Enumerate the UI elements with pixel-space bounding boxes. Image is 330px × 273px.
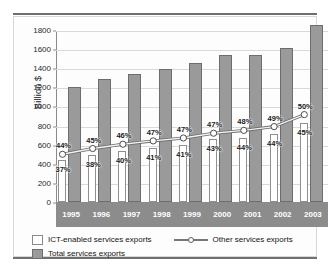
y-tick-label: 0 (47, 199, 51, 207)
chart-legend: ICT-enabled services exports Other servi… (32, 233, 324, 261)
y-tick-label: 800 (38, 123, 51, 131)
data-label-other-pct: 46% (116, 132, 131, 140)
data-label-other-pct: 47% (207, 121, 222, 129)
x-tick-label: 1995 (62, 211, 80, 219)
legend-swatch-total-icon (32, 249, 43, 259)
data-label-ict-pct: 44% (267, 140, 282, 148)
x-tick-label: 2000 (213, 211, 231, 219)
data-label-ict-pct: 43% (207, 145, 222, 153)
bar-group (237, 30, 267, 202)
data-label-other-pct: 49% (268, 115, 283, 123)
data-label-other-pct: 44% (56, 143, 71, 151)
chart-panel: Billion $ 020040060080010001200140016001… (13, 16, 317, 257)
y-tick-label: 1000 (33, 103, 51, 111)
x-tick-label: 1997 (123, 211, 141, 219)
legend-row-2: Total services exports (32, 247, 324, 260)
legend-item-total[interactable]: Total services exports (32, 249, 125, 259)
data-label-other-pct: 45% (86, 137, 101, 145)
chart-figure: Billion $ 020040060080010001200140016001… (0, 0, 330, 273)
data-label-ict-pct: 45% (297, 129, 312, 137)
legend-item-ict[interactable]: ICT-enabled services exports (32, 235, 152, 245)
data-label-ict-pct: 38% (86, 161, 101, 169)
data-label-other-pct: 47% (177, 126, 192, 134)
bar-total-services (280, 48, 293, 202)
x-tick-label: 2002 (274, 211, 292, 219)
legend-swatch-ict-icon (32, 235, 43, 245)
x-tick-label: 2003 (304, 211, 322, 219)
legend-row-1: ICT-enabled services exports Other servi… (32, 233, 324, 246)
y-tick-label: 1400 (33, 65, 51, 73)
x-tick-label: 2001 (244, 211, 262, 219)
legend-label-other: Other services exports (213, 236, 293, 244)
legend-label-ict: ICT-enabled services exports (48, 236, 152, 244)
data-label-ict-pct: 41% (176, 151, 191, 159)
legend-item-other[interactable]: Other services exports (174, 235, 293, 245)
bar-group (298, 30, 328, 202)
data-label-other-pct: 47% (147, 129, 162, 137)
bar-group (116, 30, 146, 202)
bar-group (177, 30, 207, 202)
bar-group (207, 30, 237, 202)
y-tick-label: 200 (38, 180, 51, 188)
bar-total-services (310, 25, 323, 202)
y-tick-label: 600 (38, 142, 51, 150)
y-tick-label: 1600 (33, 46, 51, 54)
figure-top-rule (13, 13, 317, 15)
bar-total-services (249, 55, 262, 202)
data-label-ict-pct: 37% (55, 166, 70, 174)
x-tick-label: 1996 (92, 211, 110, 219)
data-label-ict-pct: 41% (146, 154, 161, 162)
legend-swatch-other-icon (174, 235, 208, 245)
x-axis-band: 199519961997199819992000200120022003 (56, 203, 328, 227)
bar-group (147, 30, 177, 202)
bar-group (86, 30, 116, 202)
data-label-ict-pct: 40% (116, 157, 131, 165)
y-tick-label: 400 (38, 161, 51, 169)
data-label-other-pct: 48% (237, 119, 252, 127)
data-label-ict-pct: 44% (237, 144, 252, 152)
x-tick-label: 1998 (153, 211, 171, 219)
y-tick-label: 1800 (33, 27, 51, 35)
y-tick-label: 1200 (33, 84, 51, 92)
x-tick-label: 1999 (183, 211, 201, 219)
data-label-other-pct: 50% (298, 103, 313, 111)
legend-label-total: Total services exports (48, 250, 125, 258)
bar-group (56, 30, 86, 202)
plot-area: 020040060080010001200140016001800 44%45%… (56, 31, 328, 203)
